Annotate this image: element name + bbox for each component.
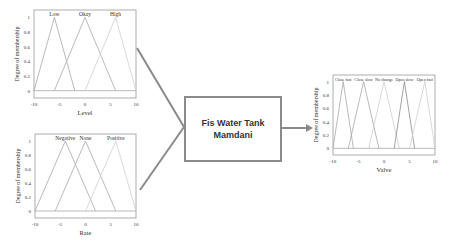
connector-rate-to-fis (140, 127, 184, 190)
y-tick-label: 0 (28, 89, 31, 94)
y-tick-label: 0.2 (323, 133, 330, 138)
y-tick-label: 0.6 (24, 45, 31, 50)
mf-label: Okay (79, 11, 91, 17)
y-tick-label: 0 (327, 146, 330, 151)
x-tick-label: -5 (58, 222, 63, 227)
x-tick-label: -5 (57, 102, 62, 107)
plot-valve-membership: 00.20.40.60.81-10-50510ValveDegree of me… (313, 75, 438, 173)
x-tick-label: 5 (110, 222, 113, 227)
x-tick-label: 0 (383, 159, 386, 164)
fis-mamdani-block: Fis Water Tank Mamdani (184, 96, 282, 162)
arrowhead-icon (306, 124, 313, 132)
y-tick-label: 1 (327, 80, 330, 85)
y-tick-label: 0.8 (24, 30, 31, 35)
x-axis-label: Valve (377, 166, 392, 173)
mf-label: Low (49, 11, 59, 17)
y-tick-label: 0.4 (24, 59, 31, 64)
x-tick-label: 5 (109, 102, 112, 107)
mf-label: No change (375, 77, 393, 82)
plot-level-membership: 00.20.40.60.81-10-50510LevelDegree of me… (14, 10, 139, 116)
y-tick-label: 0.4 (25, 181, 32, 186)
x-axis-label: Rate (80, 229, 92, 236)
fis-block-title-line1: Fis Water Tank (201, 117, 264, 129)
x-tick-label: -5 (356, 159, 361, 164)
mf-label: Open fast (417, 77, 434, 82)
mf-label: Close fast (335, 77, 352, 82)
mf-label: Open slow (395, 77, 413, 82)
x-tick-label: 0 (84, 222, 87, 227)
y-tick-label: 0.6 (25, 167, 32, 172)
mf-label: Positive (107, 135, 125, 141)
plot-rate-membership: 00.20.40.60.81-10-50510RateDegree of mem… (15, 134, 139, 236)
y-tick-label: 0.2 (24, 74, 31, 79)
y-axis-label: Degree of membership (14, 27, 20, 82)
x-tick-label: 0 (84, 102, 87, 107)
mf-label: Close slow (354, 77, 373, 82)
x-tick-label: -10 (32, 222, 39, 227)
y-axis-label: Degree of membership (313, 88, 319, 143)
y-axis-label: Degree of membership (15, 149, 21, 204)
x-tick-label: 10 (134, 102, 140, 107)
x-axis-label: Level (78, 109, 93, 116)
x-tick-label: 10 (433, 159, 439, 164)
mf-label: None (80, 135, 92, 141)
mf-label: Negative (55, 135, 75, 141)
connector-level-to-fis (137, 48, 184, 127)
y-tick-label: 0.8 (323, 93, 330, 98)
y-tick-label: 0.8 (25, 153, 32, 158)
y-tick-label: 0 (29, 209, 32, 214)
x-tick-label: -10 (330, 159, 337, 164)
y-tick-label: 0.6 (323, 106, 330, 111)
x-tick-label: 5 (408, 159, 411, 164)
y-tick-label: 0.2 (25, 195, 32, 200)
fis-block-title-line2: Mamdani (213, 129, 252, 141)
y-tick-label: 1 (29, 139, 32, 144)
plot-frame (34, 10, 136, 98)
y-tick-label: 0.4 (323, 120, 330, 125)
mf-label: High (110, 11, 121, 17)
x-tick-label: 10 (134, 222, 140, 227)
y-tick-label: 1 (28, 15, 31, 20)
x-tick-label: -10 (31, 102, 38, 107)
